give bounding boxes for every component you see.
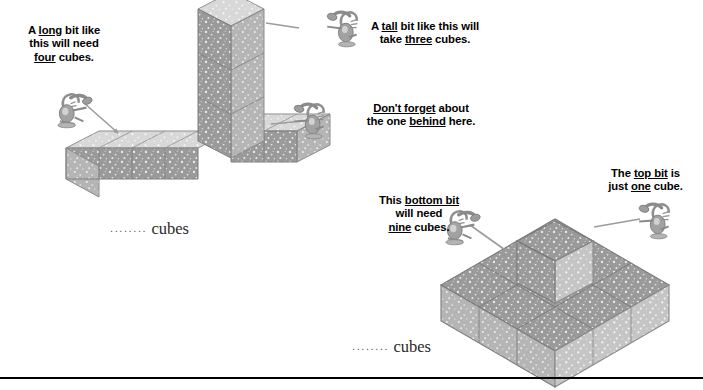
caption-tall-bit-line2: take three cubes. bbox=[380, 33, 471, 45]
caption-tall-bit: A tall bit like this will take three cub… bbox=[340, 20, 510, 47]
answer-line-left[interactable]: ........ cubes bbox=[110, 219, 189, 239]
caption-top-bit-line1: The top bit is bbox=[611, 167, 680, 179]
bug-figure-long-bit bbox=[58, 94, 93, 127]
answer-dots-left[interactable]: ........ bbox=[110, 222, 147, 234]
worksheet-page: A long bit like this will need four cube… bbox=[0, 0, 703, 390]
caption-bottom-bit-line2: will need bbox=[396, 207, 443, 219]
pointer-long-bit bbox=[84, 103, 118, 133]
caption-bottom-bit: This bottom bit will need nine cubes. bbox=[354, 194, 484, 234]
caption-long-bit-line1: A long bit like bbox=[28, 24, 100, 36]
caption-bottom-bit-line1: This bottom bit bbox=[379, 194, 459, 206]
answer-line-right[interactable]: ........ cubes bbox=[352, 337, 431, 357]
caption-top-bit-line2: just one cube. bbox=[608, 180, 683, 192]
right-cube-structure bbox=[441, 219, 669, 387]
caption-long-bit-line2: this will need bbox=[29, 37, 99, 49]
answer-dots-right[interactable]: ........ bbox=[352, 340, 389, 352]
caption-dont-forget-line2: the one behind here. bbox=[367, 115, 476, 127]
pointer-tall-bit bbox=[266, 23, 299, 28]
page-bottom-rule bbox=[0, 377, 703, 379]
caption-bottom-bit-line3: nine cubes. bbox=[388, 221, 449, 233]
caption-top-bit: The top bit is just one cube. bbox=[588, 167, 703, 194]
pointer-top-bit bbox=[594, 219, 640, 227]
caption-long-bit: A long bit like this will need four cube… bbox=[4, 24, 124, 64]
caption-long-bit-line3: four cubes. bbox=[34, 51, 94, 63]
answer-label-right: cubes bbox=[393, 337, 431, 356]
caption-tall-bit-line1: A tall bit like this will bbox=[371, 20, 479, 32]
caption-dont-forget: Don't forget about the one behind here. bbox=[336, 102, 506, 129]
bug-figure-top-bit bbox=[638, 204, 669, 239]
caption-dont-forget-line1: Don't forget about bbox=[373, 102, 469, 114]
answer-label-left: cubes bbox=[151, 219, 189, 238]
